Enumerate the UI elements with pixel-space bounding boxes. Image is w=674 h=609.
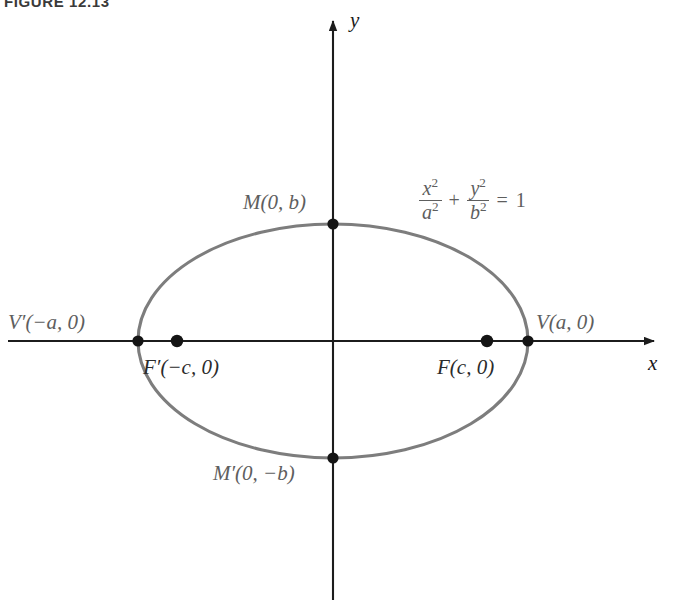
label-focus-right: F(c, 0): [437, 355, 494, 380]
covertex-top-dot: [327, 218, 338, 229]
label-focus-left: F′(−c, 0): [143, 355, 219, 380]
ellipse-figure: FIGURE 12.13 x y V′(−a, 0) V(a, 0) M(0, …: [0, 0, 674, 609]
label-covertex-bottom: M′(0, −b): [213, 461, 295, 486]
focus-right-dot: [481, 335, 493, 347]
covertex-bottom-dot: [327, 452, 338, 463]
equation-right-hand-side: 1: [516, 189, 526, 212]
focus-left-dot: [171, 335, 183, 347]
ellipse-equation: x2 a2 + y2 b2 = 1: [418, 178, 526, 223]
equation-equals-sign: =: [496, 189, 507, 212]
y-axis-label: y: [350, 8, 359, 33]
equation-y-fraction: y2 b2: [467, 178, 490, 223]
equation-plus-sign: +: [449, 189, 460, 212]
vertex-right-dot: [522, 335, 533, 346]
ellipse-canvas: [0, 0, 674, 609]
label-covertex-top: M(0, b): [243, 190, 306, 215]
vertex-left-dot: [132, 335, 143, 346]
equation-x-fraction: x2 a2: [419, 178, 442, 223]
equation-x-denominator: a2: [419, 200, 442, 223]
label-vertex-left: V′(−a, 0): [8, 310, 85, 335]
label-vertex-right: V(a, 0): [536, 310, 594, 335]
x-axis-label: x: [648, 351, 657, 376]
equation-x-numerator: x2: [420, 178, 441, 200]
equation-y-numerator: y2: [467, 178, 488, 200]
equation-y-denominator: b2: [467, 200, 490, 223]
